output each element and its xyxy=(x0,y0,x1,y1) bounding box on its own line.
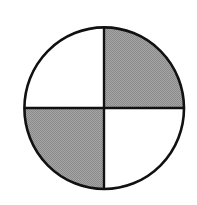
quartered-circle-diagram xyxy=(0,0,197,205)
